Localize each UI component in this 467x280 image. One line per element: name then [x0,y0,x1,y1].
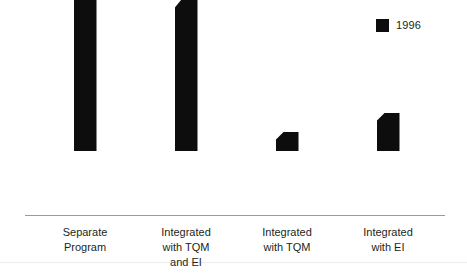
category-label-2-line-0: Integrated [232,225,342,240]
category-label-1-line-1: with TQM [131,240,241,255]
bar-wrap-3: 11% [338,0,438,151]
category-label-1-line-0: Integrated [131,225,241,240]
bar-group-0: 45% [35,0,135,151]
category-label-1-line-2: and EI [131,255,241,270]
category-label-3: Integrated with EI [333,225,443,255]
category-label-0-line-0: Separate [30,225,140,240]
bar-chart: 1996 45% 39% 5% [0,0,467,280]
category-label-3-line-0: Integrated [333,225,443,240]
bar-integrated-with-ei[interactable]: 11% [377,113,400,151]
x-axis-baseline [25,215,445,216]
category-label-3-line-1: with EI [333,240,443,255]
bar-value-label-2: 5% [280,117,294,127]
bar-group-3: 11% [338,0,438,151]
category-label-2-line-1: with TQM [232,240,342,255]
bar-value-label-3: 11% [378,98,397,108]
bar-wrap-1: 39% [136,0,236,151]
bar-integrated-with-tqm[interactable]: 5% [276,132,299,151]
category-label-1: Integrated with TQM and EI [131,225,241,270]
bar-wrap-0: 45% [35,0,135,151]
bar-group-2: 5% [237,0,337,151]
bar-wrap-2: 5% [237,0,337,151]
bar-separate-program[interactable]: 45% [74,0,97,151]
category-label-0: Separate Program [30,225,140,255]
bar-group-1: 39% [136,0,236,151]
bar-integrated-with-tqm-and-ei[interactable]: 39% [175,0,198,151]
plot-area: 45% 39% 5% 11% [0,0,467,216]
category-label-0-line-1: Program [30,240,140,255]
category-label-2: Integrated with TQM [232,225,342,255]
